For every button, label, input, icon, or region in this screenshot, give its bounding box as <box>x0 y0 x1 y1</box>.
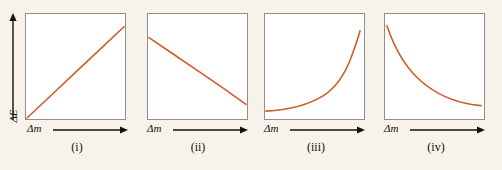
x-axis-label-i: Δm <box>27 122 41 134</box>
curve-linear-increasing <box>27 27 124 118</box>
caption-iv: (iv) <box>384 140 488 155</box>
panel-i-plot <box>26 14 125 119</box>
x-axis-arrow-iv <box>410 126 486 134</box>
curve-exponential-growth <box>266 31 360 111</box>
panel-iv <box>384 13 485 120</box>
x-axis-label-iii: Δm <box>264 122 278 134</box>
caption-ii: (ii) <box>146 140 250 155</box>
y-axis: ΔE <box>0 12 26 122</box>
caption-i: (i) <box>25 140 129 155</box>
x-axis-i: Δm <box>27 122 131 136</box>
x-axis-arrow-i <box>53 126 129 134</box>
panel-iii-plot <box>265 14 364 119</box>
curve-exponential-decay <box>387 26 481 106</box>
x-axis-iii: Δm <box>264 122 368 136</box>
panel-i <box>25 13 126 120</box>
x-axis-arrow-ii <box>173 126 249 134</box>
x-axis-iv: Δm <box>384 122 488 136</box>
panel-iii <box>264 13 365 120</box>
y-axis-label: ΔE <box>7 96 19 136</box>
curve-linear-decreasing <box>149 38 246 105</box>
panel-ii <box>147 13 248 120</box>
panel-iv-plot <box>385 14 484 119</box>
caption-iii: (iii) <box>264 140 368 155</box>
x-axis-label-ii: Δm <box>147 122 161 134</box>
x-axis-label-iv: Δm <box>384 122 398 134</box>
physics-graph-figure: ΔE Δm (i) Δm (ii) Δm <box>0 0 502 170</box>
x-axis-arrow-iii <box>290 126 366 134</box>
x-axis-ii: Δm <box>147 122 251 136</box>
panel-ii-plot <box>148 14 247 119</box>
